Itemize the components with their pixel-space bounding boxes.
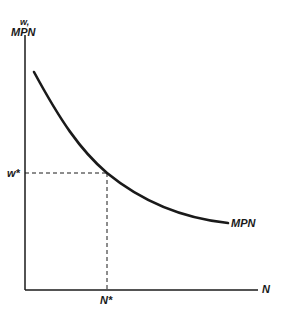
x-axis-label: N <box>262 284 270 295</box>
w-star-label: w* <box>7 168 20 179</box>
mpn-curve-label: MPN <box>231 218 255 229</box>
n-star-label: N* <box>100 295 112 306</box>
chart-canvas <box>0 0 282 311</box>
y-axis-label-line2: MPN <box>11 27 35 38</box>
mpn-curve <box>34 72 228 223</box>
